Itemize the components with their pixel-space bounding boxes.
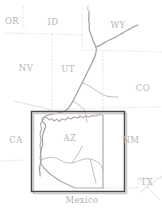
border-or-nv [4,33,52,34]
border-wy-co [92,50,162,52]
state-label-nm: NM [123,135,140,145]
colorado-river-main [40,12,97,176]
map-canvas: OR ID WY NV UT CO CA AZ NM TX Mexico [0,0,162,211]
state-label-tx: TX [141,177,154,187]
little-colorado-in-az [86,113,88,122]
state-label-id: ID [48,17,59,27]
country-labels-layer: Mexico [66,195,99,205]
map-svg: OR ID WY NV UT CO CA AZ NM TX Mexico [0,0,162,211]
border-id-nv-ut [52,34,82,35]
country-label-mexico: Mexico [66,195,99,205]
state-borders-layer [0,6,162,200]
extent-box-shadow [34,114,127,194]
state-label-nv: NV [19,63,34,73]
border-id-wy [82,35,92,50]
state-label-ut: UT [61,64,75,74]
san-juan-tributary [82,83,118,97]
border-ca-south [0,160,26,161]
arizona-boundary [40,115,103,189]
colorado-river-layer [40,6,139,176]
state-label-wy: WY [110,20,125,30]
gila-river [41,157,103,170]
green-river-branch [88,6,89,12]
state-label-co: CO [136,83,150,93]
san-pedro-tributary [90,159,96,183]
state-labels-layer: OR ID WY NV UT CO CA AZ NM TX [5,16,154,187]
state-label-or: OR [5,16,19,26]
border-ca-nv-diagonal [14,101,52,110]
state-label-az: AZ [63,133,77,143]
state-label-ca: CA [9,135,23,145]
arizona-outline-layer [40,113,103,188]
border-or-id [23,6,26,31]
